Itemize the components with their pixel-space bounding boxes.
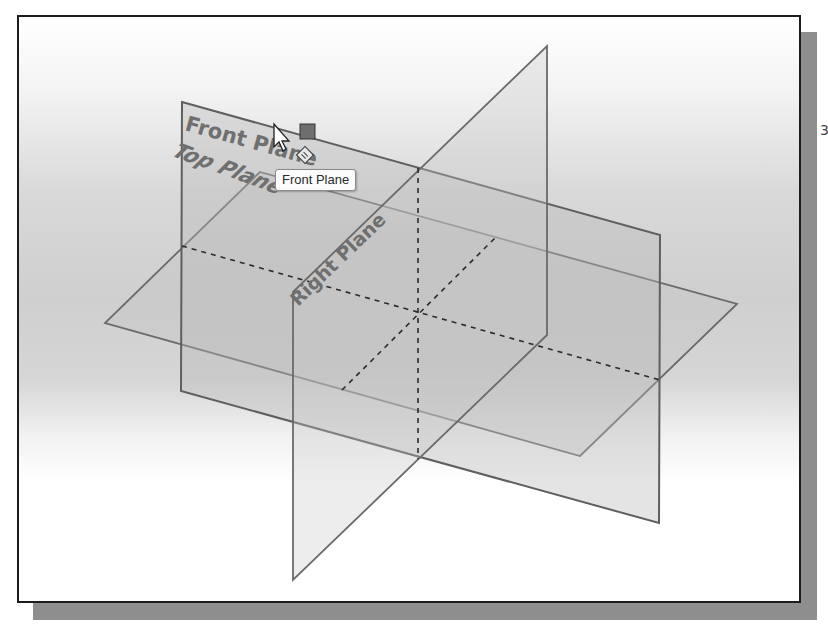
- screenshot-stage: Front Plane Top Plane Right Plane Front …: [0, 0, 828, 628]
- cropped-edge-glyph: 3: [820, 122, 828, 138]
- graphics-viewport[interactable]: Front Plane Top Plane Right Plane: [17, 15, 801, 603]
- plane-square-icon: [300, 124, 315, 139]
- hover-tooltip: Front Plane: [275, 169, 356, 191]
- reference-planes-scene: Front Plane Top Plane Right Plane: [19, 17, 799, 601]
- right-plane-surface[interactable]: [293, 46, 547, 580]
- right-plane[interactable]: [293, 46, 547, 580]
